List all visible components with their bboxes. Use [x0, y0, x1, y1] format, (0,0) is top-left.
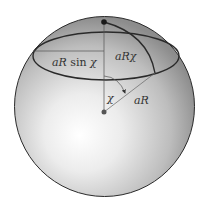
label-arc-length: aRχ	[115, 50, 138, 63]
label-horizontal-radius-a: aR	[52, 56, 67, 69]
center-point	[102, 110, 107, 115]
label-horizontal-radius: aR sin χ	[52, 56, 98, 69]
label-radius: aR	[134, 94, 149, 107]
label-horizontal-radius-sin: sin	[70, 56, 86, 69]
sphere-diagram: aR sin χ aRχ χ aR	[0, 0, 205, 211]
label-horizontal-radius-chi: χ	[89, 56, 98, 69]
sphere-diagram-svg: aR sin χ aRχ χ aR	[0, 0, 205, 211]
north-pole-point	[101, 19, 107, 25]
label-angle-chi: χ	[106, 92, 115, 105]
